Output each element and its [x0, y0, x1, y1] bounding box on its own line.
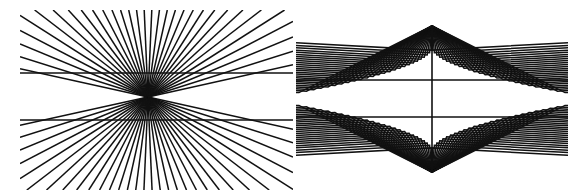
background [0, 0, 586, 194]
figure-svg [0, 0, 586, 194]
illusion-figure-canvas [0, 0, 586, 194]
